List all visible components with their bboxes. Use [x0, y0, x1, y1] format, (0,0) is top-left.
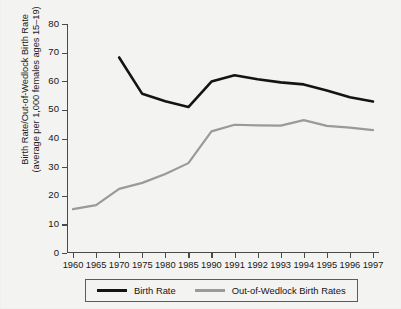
- x-tick-label-1970: 1970: [109, 260, 130, 270]
- y-tick-label-40: 40: [48, 132, 59, 143]
- y-tick-0: 0: [62, 253, 67, 254]
- x-tick-1965: 1965: [96, 253, 97, 258]
- x-tick-label-1985: 1985: [178, 260, 199, 270]
- y-tick-label-60: 60: [48, 75, 59, 86]
- y-tick-label-20: 20: [48, 189, 59, 200]
- x-tick-label-1993: 1993: [270, 260, 291, 270]
- x-tick-label-1960: 1960: [63, 260, 84, 270]
- x-tick-1993: 1993: [281, 253, 282, 258]
- x-tick-label-1980: 1980: [155, 260, 176, 270]
- x-tick-1960: 1960: [73, 253, 74, 258]
- y-axis-title: Birth Rate/Out-of-Wedlock Birth Rate (av…: [20, 0, 43, 204]
- birth-rate-line-chart: Birth Rate/Out-of-Wedlock Birth Rate (av…: [0, 0, 401, 309]
- plot-area: 01020304050607080 1960196519701975198019…: [67, 24, 379, 253]
- y-tick-label-70: 70: [48, 46, 59, 57]
- y-tick-label-80: 80: [48, 18, 59, 29]
- legend-swatch-out-of-wedlock-birth-rates: [195, 289, 225, 291]
- x-tick-label-1990: 1990: [201, 260, 222, 270]
- legend-label-out-of-wedlock-birth-rates: Out-of-Wedlock Birth Rates: [232, 285, 346, 296]
- x-tick-1994: 1994: [304, 253, 305, 258]
- x-tick-label-1995: 1995: [317, 260, 338, 270]
- x-tick-label-1994: 1994: [293, 260, 314, 270]
- y-tick-label-10: 10: [48, 218, 59, 229]
- x-tick-1985: 1985: [188, 253, 189, 258]
- x-tick-1995: 1995: [327, 253, 328, 258]
- x-tick-label-1997: 1997: [363, 260, 384, 270]
- x-tick-label-1965: 1965: [86, 260, 107, 270]
- legend-label-birth-rate: Birth Rate: [134, 285, 176, 296]
- x-tick-label-1975: 1975: [132, 260, 153, 270]
- x-tick-1980: 1980: [165, 253, 166, 258]
- x-tick-label-1992: 1992: [247, 260, 268, 270]
- series-line-out-of-wedlock-birth-rates: [73, 120, 373, 209]
- x-tick-label-1991: 1991: [224, 260, 245, 270]
- y-tick-label-30: 30: [48, 161, 59, 172]
- series-line-birth-rate: [119, 57, 373, 107]
- legend-swatch-birth-rate: [97, 289, 127, 292]
- x-tick-1997: 1997: [373, 253, 374, 258]
- y-tick-label-0: 0: [54, 247, 59, 258]
- x-tick-1990: 1990: [211, 253, 212, 258]
- x-tick-1970: 1970: [119, 253, 120, 258]
- x-tick-label-1996: 1996: [340, 260, 361, 270]
- chart-legend: Birth Rate Out-of-Wedlock Birth Rates: [85, 279, 358, 302]
- x-tick-1992: 1992: [258, 253, 259, 258]
- x-tick-1996: 1996: [350, 253, 351, 258]
- y-tick-label-50: 50: [48, 103, 59, 114]
- legend-item-birth-rate: Birth Rate: [97, 285, 176, 296]
- x-tick-1975: 1975: [142, 253, 143, 258]
- series-lines: [67, 24, 379, 253]
- x-tick-1991: 1991: [235, 253, 236, 258]
- legend-item-out-of-wedlock-birth-rates: Out-of-Wedlock Birth Rates: [195, 285, 346, 296]
